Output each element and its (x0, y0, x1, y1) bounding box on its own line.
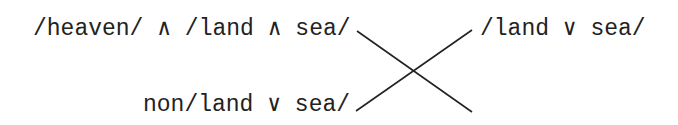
crossing-lines (0, 0, 678, 125)
edge-topleft-to-bottomright (357, 31, 472, 112)
